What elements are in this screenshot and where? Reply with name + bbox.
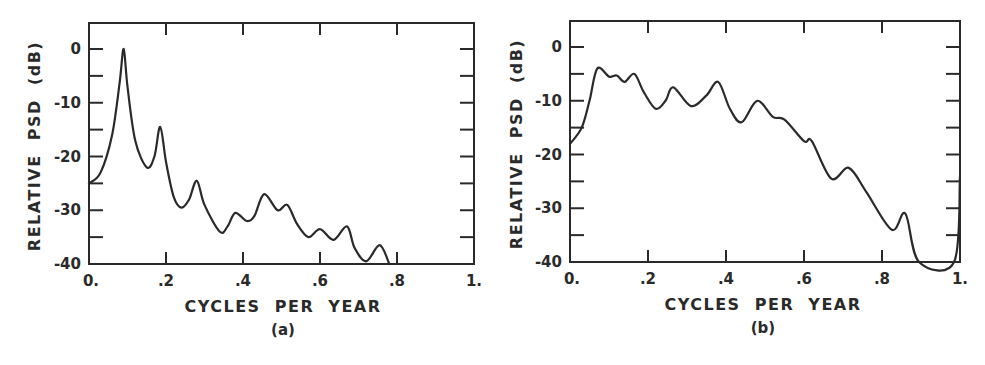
panel-caption-a: (a): [271, 321, 295, 339]
y-tick-labels-b: 0-10-20-30-40: [535, 38, 562, 271]
x-tick-label: 0.: [83, 272, 99, 290]
x-tick-label: .4: [235, 272, 251, 290]
y-axis-title-a: RELATIVE PSD (dB): [25, 41, 44, 251]
panel-a: 0..2.4.6.81. 0-10-20-30-40 RELATIVE PSD …: [25, 23, 482, 339]
y-tick-label: -30: [535, 199, 562, 217]
x-tick-label: .2: [640, 270, 656, 288]
y-tick-label: -40: [535, 253, 562, 271]
y-tick-labels-a: 0-10-20-30-40: [54, 40, 81, 273]
figure: 0..2.4.6.81. 0-10-20-30-40 RELATIVE PSD …: [0, 0, 985, 365]
x-tick-label: 1.: [952, 270, 968, 288]
axis-ticks-b: [570, 21, 960, 262]
x-tick-labels-a: 0..2.4.6.81.: [83, 272, 482, 290]
y-tick-label: 0: [71, 40, 81, 58]
x-tick-label: .8: [874, 270, 890, 288]
y-tick-label: -10: [54, 94, 81, 112]
y-tick-label: -40: [54, 255, 81, 273]
x-tick-label: .4: [718, 270, 734, 288]
y-tick-label: 0: [552, 38, 562, 56]
x-axis-title-a: CYCLES PER YEAR: [184, 297, 381, 316]
y-tick-label: -20: [535, 146, 562, 164]
y-tick-label: -30: [54, 201, 81, 219]
x-tick-labels-b: 0..2.4.6.81.: [564, 270, 968, 288]
x-tick-label: .6: [312, 272, 328, 290]
x-tick-label: 0.: [564, 270, 580, 288]
panel-caption-b: (b): [751, 319, 775, 337]
axis-ticks-a: [89, 23, 474, 264]
x-tick-label: .2: [158, 272, 174, 290]
x-tick-label: .8: [389, 272, 405, 290]
y-tick-label: -10: [535, 92, 562, 110]
panel-b: 0..2.4.6.81. 0-10-20-30-40 RELATIVE PSD …: [507, 21, 968, 337]
plot-frame-b: [570, 21, 960, 262]
y-tick-label: -20: [54, 148, 81, 166]
y-axis-title-b: RELATIVE PSD (dB): [507, 39, 526, 249]
plot-frame-a: [89, 23, 474, 264]
x-axis-title-b: CYCLES PER YEAR: [664, 295, 861, 314]
psd-curve-b: [570, 68, 960, 271]
psd-curve-a: [89, 49, 389, 264]
x-tick-label: .6: [796, 270, 812, 288]
x-tick-label: 1.: [466, 272, 482, 290]
